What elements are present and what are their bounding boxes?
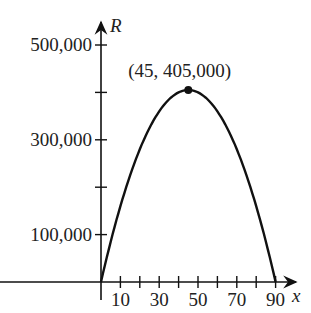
y-tick-label: 300,000 [30, 129, 92, 150]
x-axis-ticks: 1030507090 [111, 276, 285, 310]
x-axis-label: x [291, 285, 301, 306]
x-tick-label: 90 [266, 289, 285, 310]
vertex-point [184, 86, 192, 94]
y-axis-label: R [109, 15, 122, 36]
revenue-chart: 1030507090 100,000300,000500,000 R x (45… [0, 0, 311, 313]
y-tick-label: 100,000 [30, 224, 92, 245]
x-tick-label: 30 [150, 289, 169, 310]
x-tick-label: 10 [111, 289, 130, 310]
y-tick-label: 500,000 [30, 34, 92, 55]
x-tick-label: 70 [227, 289, 246, 310]
x-tick-label: 50 [189, 289, 208, 310]
revenue-curve [101, 90, 276, 282]
y-axis-ticks: 100,000300,000500,000 [30, 34, 107, 245]
vertex-annotation: (45, 405,000) [128, 60, 231, 82]
